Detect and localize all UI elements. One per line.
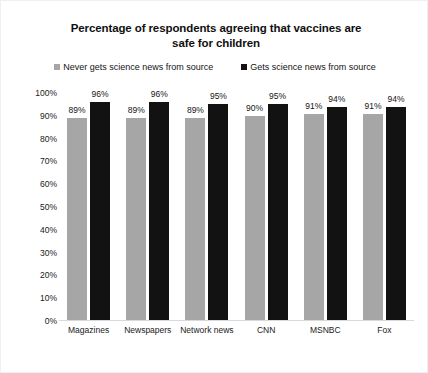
bar-gets[interactable]: 96% — [90, 102, 110, 321]
legend-item-never[interactable]: Never gets science news from source — [54, 62, 213, 72]
bar-value-label: 95% — [269, 91, 286, 101]
x-axis-tick-label: Newspapers — [118, 325, 177, 335]
bar-never[interactable]: 91% — [304, 114, 324, 321]
chart-container: Percentage of respondents agreeing that … — [0, 0, 428, 373]
plot-area: 89%96%89%96%89%95%90%95%91%94%91%94% — [59, 93, 414, 321]
y-axis-tick-label: 20% — [21, 270, 57, 280]
x-axis-tick-label: Network news — [177, 325, 236, 335]
bar-gets[interactable]: 94% — [386, 107, 406, 321]
x-axis-tick-label: MSNBC — [296, 325, 355, 335]
bar-value-label: 96% — [92, 89, 109, 99]
bar-value-label: 94% — [328, 94, 345, 104]
bar-group: 89%96% — [59, 93, 118, 321]
bar-value-label: 91% — [364, 101, 381, 111]
y-axis-tick-label: 100% — [21, 88, 57, 98]
legend-item-label: Never gets science news from source — [63, 62, 213, 72]
bar-group: 89%96% — [118, 93, 177, 321]
bar-gets[interactable]: 95% — [208, 104, 228, 321]
bar-value-label: 95% — [210, 91, 227, 101]
bar-value-label: 91% — [305, 101, 322, 111]
bar-never[interactable]: 90% — [245, 116, 265, 321]
y-axis-tick-label: 60% — [21, 179, 57, 189]
legend-item-label: Gets science news from source — [250, 62, 376, 72]
bar-never[interactable]: 89% — [185, 118, 205, 321]
x-axis: MagazinesNewspapersNetwork newsCNNMSNBCF… — [59, 325, 414, 335]
y-axis-tick-label: 70% — [21, 156, 57, 166]
bar-gets[interactable]: 94% — [327, 107, 347, 321]
bar-value-label: 89% — [69, 105, 86, 115]
legend-swatch-icon-never — [54, 64, 60, 70]
chart-legend: Never gets science news from sourceGets … — [1, 62, 428, 72]
y-axis-tick-label: 10% — [21, 293, 57, 303]
bar-gets[interactable]: 96% — [149, 102, 169, 321]
x-axis-tick-label: Fox — [355, 325, 414, 335]
y-axis-tick-label: 40% — [21, 225, 57, 235]
bar-group: 89%95% — [177, 93, 236, 321]
y-axis-tick-label: 30% — [21, 248, 57, 258]
bar-value-label: 89% — [128, 105, 145, 115]
y-axis-tick-label: 0% — [21, 316, 57, 326]
y-axis: 100%90%80%70%60%50%40%30%20%10%0% — [21, 93, 57, 321]
bar-group: 90%95% — [237, 93, 296, 321]
bar-never[interactable]: 89% — [67, 118, 87, 321]
bar-group: 91%94% — [355, 93, 414, 321]
y-axis-tick-label: 90% — [21, 111, 57, 121]
chart-title: Percentage of respondents agreeing that … — [31, 21, 401, 51]
y-axis-tick-label: 50% — [21, 202, 57, 212]
chart-title-line-1: Percentage of respondents agreeing that … — [71, 22, 362, 34]
bar-gets[interactable]: 95% — [268, 104, 288, 321]
x-axis-baseline — [59, 320, 414, 321]
x-axis-tick-label: CNN — [237, 325, 296, 335]
bar-group: 91%94% — [296, 93, 355, 321]
bar-value-label: 89% — [187, 105, 204, 115]
legend-item-gets[interactable]: Gets science news from source — [241, 62, 376, 72]
x-axis-tick-label: Magazines — [59, 325, 118, 335]
legend-swatch-icon-gets — [241, 64, 247, 70]
bar-never[interactable]: 91% — [363, 114, 383, 321]
bar-value-label: 94% — [387, 94, 404, 104]
bar-value-label: 90% — [246, 103, 263, 113]
bar-group-layer: 89%96%89%96%89%95%90%95%91%94%91%94% — [59, 93, 414, 321]
bar-never[interactable]: 89% — [126, 118, 146, 321]
chart-title-line-2: safe for children — [172, 37, 260, 49]
bar-value-label: 96% — [151, 89, 168, 99]
y-axis-tick-label: 80% — [21, 134, 57, 144]
